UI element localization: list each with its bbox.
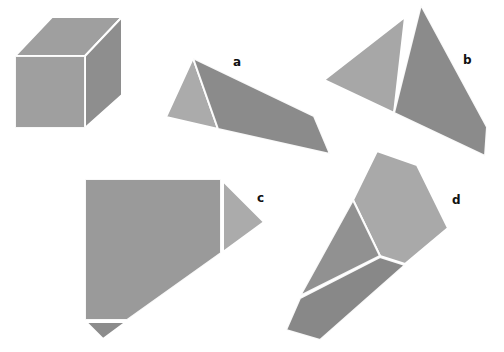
figure-a-label: a [233, 55, 241, 69]
figure-c-bottom-triangle [86, 322, 126, 339]
figure-d: d [286, 151, 461, 340]
figure-b: b [324, 5, 487, 156]
folded-net-diagram: a b c d [0, 0, 504, 352]
figure-d-label: d [452, 193, 461, 207]
figure-b-left-face [324, 17, 405, 113]
figure-a: a [166, 55, 330, 154]
figure-c-label: c [257, 191, 264, 205]
cube-figure [15, 17, 122, 128]
figure-c: c [85, 179, 264, 339]
figure-b-label: b [463, 53, 472, 67]
